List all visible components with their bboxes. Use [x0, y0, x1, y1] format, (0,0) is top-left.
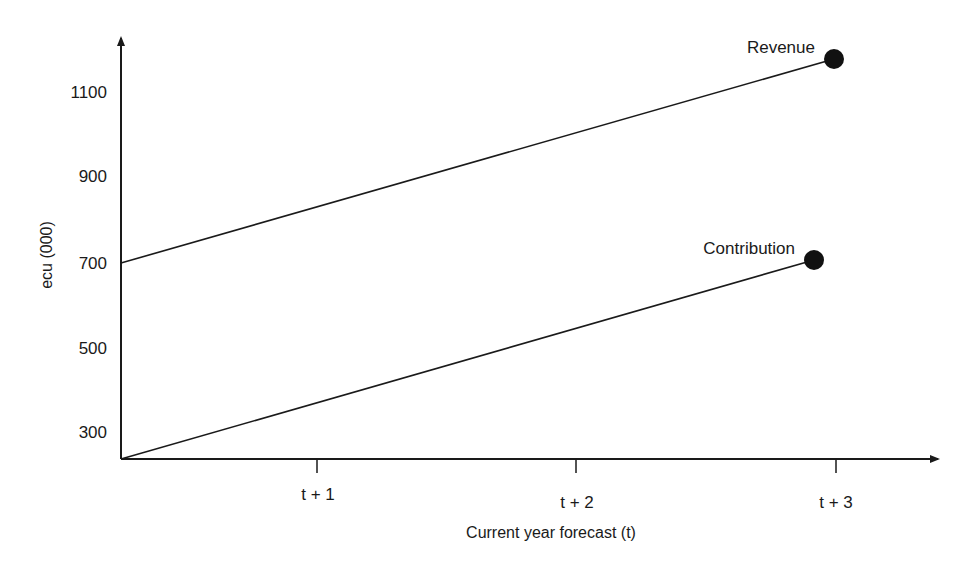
x-axis-title: Current year forecast (t)	[466, 524, 636, 541]
y-tick-label-900: 900	[79, 167, 107, 186]
revenue-marker	[824, 49, 844, 69]
x-tick-label-2: t + 2	[560, 493, 594, 512]
y-axis-title: ecu (000)	[38, 221, 55, 289]
y-tick-label-500: 500	[79, 339, 107, 358]
y-tick-label-700: 700	[79, 254, 107, 273]
y-tick-label-300: 300	[79, 423, 107, 442]
x-tick-label-3: t + 3	[819, 493, 853, 512]
contribution-marker	[804, 250, 824, 270]
contribution-label: Contribution	[703, 239, 795, 258]
y-tick-label-1100: 1100	[70, 83, 107, 102]
contribution-line	[121, 260, 814, 459]
revenue-label: Revenue	[747, 38, 815, 57]
line-chart: t + 1 t + 2 t + 3 1100 900 700 500 300 e…	[0, 0, 976, 572]
x-tick-label-1: t + 1	[301, 485, 335, 504]
revenue-line	[121, 59, 834, 263]
